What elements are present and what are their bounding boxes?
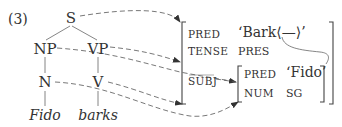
example-number: (3) [8, 12, 28, 26]
value-pred-bark: ‘Bark⟨—⟩’ [238, 25, 306, 39]
value-pres: PRES [238, 46, 269, 57]
subj-value-fido: ‘Fido’ [286, 65, 326, 79]
subj-value-sg: SG [286, 88, 302, 99]
attr-subj: SUBJ [188, 76, 217, 87]
node-n: N [38, 75, 51, 90]
word-fido: Fido [29, 108, 61, 122]
argument-link [282, 37, 328, 64]
word-barks: barks [78, 108, 118, 122]
node-v: V [93, 75, 104, 90]
attr-tense: TENSE [188, 46, 228, 57]
tree-edges [45, 26, 98, 106]
subj-attr-pred: PRED [244, 69, 276, 80]
projection-arrows [55, 11, 238, 117]
attr-pred: PRED [188, 29, 220, 40]
node-s: S [66, 11, 76, 26]
node-vp: VP [88, 42, 109, 57]
subj-attr-num: NUM [244, 88, 274, 99]
node-np: NP [33, 42, 56, 57]
